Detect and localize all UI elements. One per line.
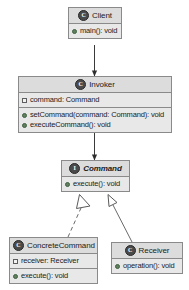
- class-header-client: C Client: [69, 8, 121, 24]
- class-box-receiver[interactable]: C Receiver operation(): void: [111, 242, 183, 274]
- class-header-concretecommand: C ConcreteCommand: [10, 238, 97, 254]
- method-label: executeCommand(): void: [30, 120, 111, 130]
- class-icon: C: [125, 245, 136, 256]
- method-label: execute(): void: [73, 179, 120, 189]
- hollow-triangle-generalization-icon: [108, 195, 117, 207]
- methods-compartment-client: main(): void: [69, 24, 121, 38]
- interface-icon: I: [69, 163, 80, 174]
- class-name-concretecommand: ConcreteCommand: [27, 241, 95, 250]
- method-row[interactable]: operation(): void: [115, 261, 179, 271]
- methods-compartment-command: execute(): void: [62, 177, 129, 191]
- class-box-invoker[interactable]: C Invoker command: Command setCommand(co…: [18, 76, 172, 133]
- class-name-client: Client: [92, 11, 112, 20]
- class-box-client[interactable]: C Client main(): void: [68, 7, 122, 39]
- field-marker-icon: [13, 259, 18, 264]
- class-name-command: Command: [83, 164, 121, 173]
- method-label: operation(): void: [123, 261, 175, 271]
- connector-concretecommand-to-command: [68, 208, 81, 237]
- class-box-concretecommand[interactable]: C ConcreteCommand receiver: Receiver exe…: [9, 237, 98, 284]
- fields-compartment-concretecommand: receiver: Receiver: [10, 254, 97, 268]
- class-header-invoker: C Invoker: [19, 77, 171, 93]
- method-row[interactable]: setCommand(command: Command): void: [22, 110, 168, 120]
- method-marker-icon: [13, 274, 18, 279]
- field-row[interactable]: receiver: Receiver: [13, 256, 94, 266]
- class-name-receiver: Receiver: [139, 246, 170, 255]
- class-name-invoker: Invoker: [89, 80, 115, 89]
- field-label: receiver: Receiver: [21, 256, 79, 266]
- method-row[interactable]: main(): void: [72, 26, 118, 36]
- method-label: setCommand(command: Command): void: [30, 110, 164, 120]
- class-box-command[interactable]: I Command execute(): void: [61, 160, 130, 192]
- method-marker-icon: [65, 182, 70, 187]
- method-marker-icon: [22, 123, 27, 128]
- class-icon: C: [13, 240, 24, 251]
- fields-compartment-invoker: command: Command: [19, 93, 171, 107]
- field-row[interactable]: command: Command: [22, 95, 168, 105]
- connector-receiver-to-command: [113, 205, 132, 242]
- methods-compartment-concretecommand: execute(): void: [10, 268, 97, 283]
- class-header-receiver: C Receiver: [112, 243, 182, 259]
- method-marker-icon: [115, 264, 120, 269]
- class-icon: C: [75, 79, 86, 90]
- method-label: main(): void: [80, 26, 117, 36]
- method-row[interactable]: execute(): void: [65, 179, 126, 189]
- class-header-command: I Command: [62, 161, 129, 177]
- method-marker-icon: [22, 113, 27, 118]
- methods-compartment-invoker: setCommand(command: Command): void execu…: [19, 107, 171, 132]
- field-marker-icon: [22, 98, 27, 103]
- method-label: execute(): void: [21, 271, 68, 281]
- hollow-triangle-realization-icon: [77, 195, 91, 209]
- uml-class-diagram: C Client main(): void C Invoker command:…: [0, 0, 189, 290]
- methods-compartment-receiver: operation(): void: [112, 259, 182, 273]
- class-icon: C: [78, 10, 89, 21]
- method-marker-icon: [72, 29, 77, 34]
- field-label: command: Command: [30, 95, 99, 105]
- method-row[interactable]: execute(): void: [13, 271, 94, 281]
- method-row[interactable]: executeCommand(): void: [22, 120, 168, 130]
